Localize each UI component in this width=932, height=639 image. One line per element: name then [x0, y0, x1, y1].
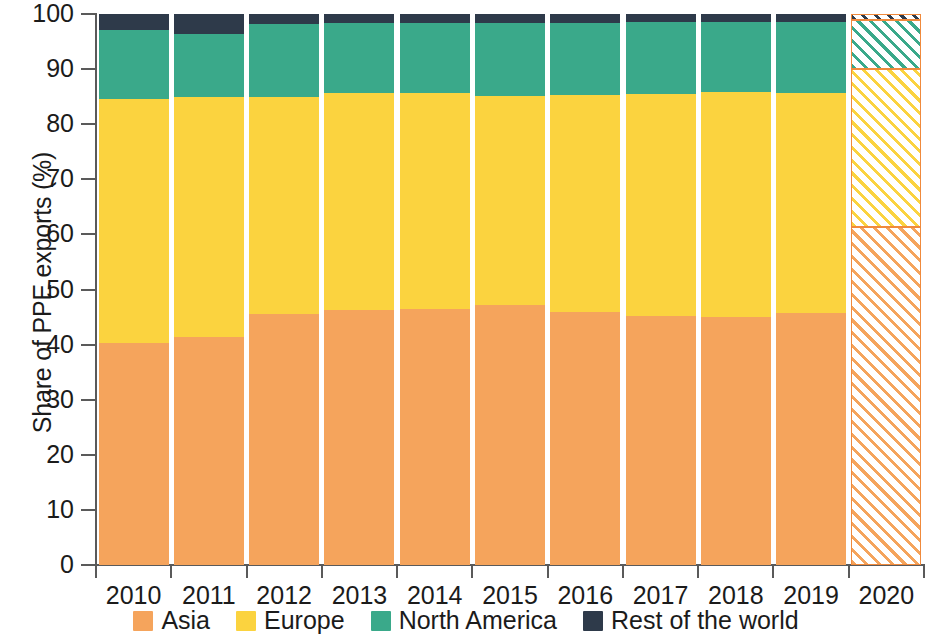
bar-segment-2010-asia[interactable] [99, 343, 169, 565]
x-axis-tick [246, 566, 248, 578]
legend-swatch-icon [236, 611, 256, 631]
bar-segment-2015-rest-of-the-world[interactable] [475, 14, 545, 23]
legend-item-asia[interactable]: Asia [133, 608, 210, 633]
bar-segment-2012-rest-of-the-world[interactable] [249, 14, 319, 24]
y-axis-tick-label: 50 [0, 277, 74, 302]
y-axis-tick [81, 289, 95, 291]
x-axis-tick [321, 566, 323, 578]
y-axis-tick-label: 90 [0, 56, 74, 81]
y-axis-tick [81, 399, 95, 401]
bar-segment-2017-rest-of-the-world[interactable] [626, 14, 696, 22]
legend-swatch-icon [133, 611, 153, 631]
bar-segment-2019-rest-of-the-world[interactable] [776, 14, 846, 22]
y-axis-tick [81, 68, 95, 70]
chart-legend: AsiaEuropeNorth AmericaRest of the world [0, 608, 932, 633]
bar-segment-2014-asia[interactable] [400, 309, 470, 565]
bar-2018[interactable] [701, 14, 771, 565]
bar-segment-2010-rest-of-the-world[interactable] [99, 14, 169, 30]
bar-segment-2018-north-america[interactable] [701, 22, 771, 91]
x-axis-tick [471, 566, 473, 578]
bar-segment-2020-rest-of-the-world[interactable] [851, 14, 921, 20]
x-axis-tick [622, 566, 624, 578]
bar-2016[interactable] [550, 14, 620, 565]
bar-2012[interactable] [249, 14, 319, 565]
y-axis-tick [81, 123, 95, 125]
bar-segment-2013-north-america[interactable] [324, 23, 394, 93]
bar-2014[interactable] [400, 14, 470, 565]
legend-label: Asia [161, 608, 210, 633]
legend-label: Rest of the world [611, 608, 799, 633]
bar-segment-2019-asia[interactable] [776, 313, 846, 565]
bar-segment-2020-europe[interactable] [851, 69, 921, 227]
legend-item-north-america[interactable]: North America [371, 608, 557, 633]
y-axis-tick-label: 100 [0, 1, 74, 26]
bar-2013[interactable] [324, 14, 394, 565]
bar-segment-2016-north-america[interactable] [550, 23, 620, 95]
bar-segment-2014-rest-of-the-world[interactable] [400, 14, 470, 23]
bar-2010[interactable] [99, 14, 169, 565]
y-axis-tick-label: 80 [0, 111, 74, 136]
bar-2011[interactable] [174, 14, 244, 565]
bar-segment-2014-north-america[interactable] [400, 23, 470, 92]
y-axis-tick-label: 0 [0, 552, 74, 577]
y-axis-tick [81, 178, 95, 180]
bar-segment-2017-north-america[interactable] [626, 22, 696, 94]
bar-segment-2015-north-america[interactable] [475, 23, 545, 95]
bar-segment-2011-asia[interactable] [174, 337, 244, 565]
x-axis-tick [95, 566, 97, 578]
bar-2020[interactable] [851, 14, 921, 565]
y-axis-tick [81, 564, 95, 566]
y-axis-tick [81, 233, 95, 235]
bar-segment-2013-rest-of-the-world[interactable] [324, 14, 394, 23]
bar-segment-2013-europe[interactable] [324, 93, 394, 310]
bar-segment-2016-asia[interactable] [550, 312, 620, 565]
x-axis-tick [396, 566, 398, 578]
bar-segment-2017-europe[interactable] [626, 94, 696, 316]
y-axis-tick-label: 20 [0, 442, 74, 467]
bar-segment-2016-europe[interactable] [550, 95, 620, 312]
bar-segment-2011-north-america[interactable] [174, 34, 244, 97]
legend-swatch-icon [371, 611, 391, 631]
bar-2019[interactable] [776, 14, 846, 565]
bar-segment-2012-north-america[interactable] [249, 24, 319, 97]
bar-segment-2014-europe[interactable] [400, 93, 470, 310]
legend-label: North America [399, 608, 557, 633]
y-axis-tick-label: 10 [0, 497, 74, 522]
bar-segment-2012-europe[interactable] [249, 97, 319, 314]
y-axis-tick-label: 40 [0, 332, 74, 357]
stacked-bar-chart: Share of PPE exports (%) 010203040506070… [0, 0, 932, 639]
bar-segment-2013-asia[interactable] [324, 310, 394, 565]
bar-segment-2015-asia[interactable] [475, 305, 545, 565]
x-axis-tick [848, 566, 850, 578]
x-axis-tick [697, 566, 699, 578]
bar-segment-2010-north-america[interactable] [99, 30, 169, 99]
y-axis-tick [81, 509, 95, 511]
bar-segment-2015-europe[interactable] [475, 96, 545, 305]
legend-item-rest-of-the-world[interactable]: Rest of the world [583, 608, 799, 633]
bar-segment-2018-asia[interactable] [701, 317, 771, 565]
bar-segment-2018-europe[interactable] [701, 92, 771, 317]
bar-segment-2011-rest-of-the-world[interactable] [174, 14, 244, 34]
y-axis-tick-label: 60 [0, 221, 74, 246]
bar-segment-2020-north-america[interactable] [851, 20, 921, 69]
y-axis-tick-label: 70 [0, 166, 74, 191]
bar-segment-2016-rest-of-the-world[interactable] [550, 14, 620, 23]
x-axis-tick-label-2020: 2020 [841, 581, 931, 610]
x-axis-tick [923, 566, 925, 578]
bar-segment-2020-asia[interactable] [851, 227, 921, 565]
y-axis-tick [81, 344, 95, 346]
bar-segment-2011-europe[interactable] [174, 97, 244, 337]
bar-segment-2012-asia[interactable] [249, 314, 319, 565]
bar-segment-2017-asia[interactable] [626, 316, 696, 565]
bar-segment-2019-europe[interactable] [776, 93, 846, 313]
bar-segment-2019-north-america[interactable] [776, 22, 846, 93]
bar-2017[interactable] [626, 14, 696, 565]
x-axis-tick [547, 566, 549, 578]
legend-swatch-icon [583, 611, 603, 631]
y-axis-tick [81, 454, 95, 456]
bar-2015[interactable] [475, 14, 545, 565]
bar-segment-2010-europe[interactable] [99, 99, 169, 343]
legend-item-europe[interactable]: Europe [236, 608, 345, 633]
x-axis-tick [170, 566, 172, 578]
bar-segment-2018-rest-of-the-world[interactable] [701, 14, 771, 22]
